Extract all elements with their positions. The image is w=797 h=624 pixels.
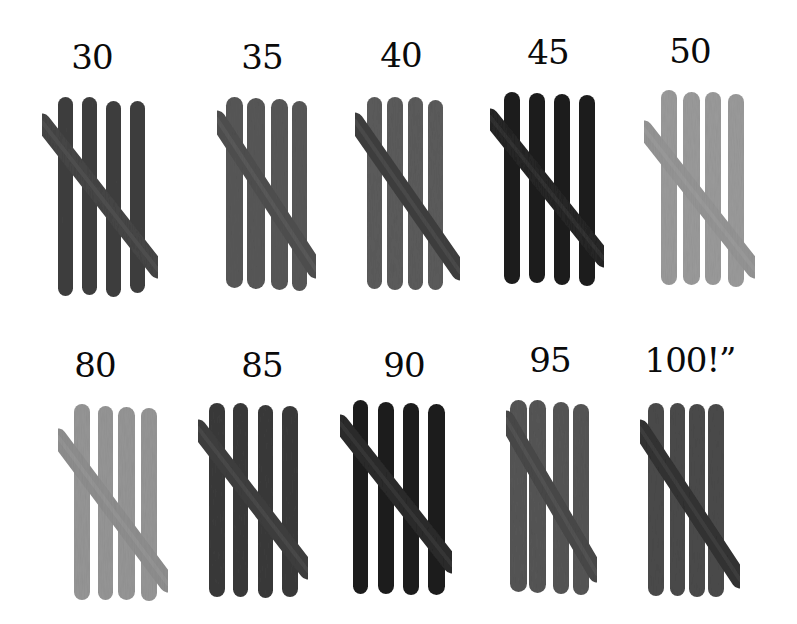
count-label-40: 40: [380, 38, 421, 72]
vertical-stick: [504, 92, 520, 284]
count-label-95: 95: [529, 343, 570, 377]
count-label-90: 90: [383, 348, 424, 382]
vertical-stick: [428, 100, 443, 290]
tally-group-2: [355, 97, 460, 290]
tally-group-9: [640, 403, 740, 597]
tally-group-4: [644, 90, 755, 287]
count-label-50: 50: [669, 34, 710, 68]
vertical-stick: [367, 97, 382, 289]
tally-group-1: [217, 97, 316, 291]
tally-image: 30 35 40 45 50 80 85 90 95 100!”: [0, 0, 797, 624]
vertical-stick: [661, 90, 677, 285]
vertical-stick: [705, 92, 721, 285]
vertical-stick: [74, 404, 90, 600]
count-label-30: 30: [71, 40, 112, 74]
vertical-stick: [118, 407, 135, 600]
popsicle-sticks-canvas: [0, 0, 797, 624]
tally-group-0: [42, 97, 158, 297]
count-label-35: 35: [241, 40, 282, 74]
count-label-85: 85: [241, 348, 282, 382]
tally-group-5: [58, 404, 168, 601]
tally-group-8: [506, 400, 597, 595]
vertical-stick: [708, 404, 724, 597]
tally-group-3: [490, 92, 604, 286]
tally-group-7: [340, 400, 452, 595]
count-label-45: 45: [527, 35, 568, 69]
tally-group-6: [198, 403, 308, 598]
count-label-80: 80: [74, 348, 115, 382]
vertical-stick: [58, 97, 73, 296]
count-label-100: 100!”: [645, 343, 736, 377]
